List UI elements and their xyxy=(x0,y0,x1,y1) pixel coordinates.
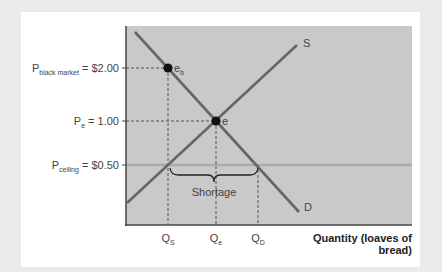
y-label-black-market: Pblack market = $2.00 xyxy=(32,62,119,76)
y-label-equilibrium: Pe = 1.00 xyxy=(74,115,119,129)
shortage-label: Shortage xyxy=(192,186,237,198)
black-market-point xyxy=(163,63,172,72)
equilibrium-point-label: e xyxy=(222,115,228,127)
equilibrium-point xyxy=(211,116,220,125)
x-axis-title-line2: bread) xyxy=(378,244,412,256)
x-axis-title-line1: Quantity (loaves of xyxy=(313,232,412,244)
y-label-ceiling: Pceiling = $0.50 xyxy=(52,159,119,174)
plot-area xyxy=(126,26,412,225)
x-label-qd: QD xyxy=(251,232,265,246)
chart-svg: eb e S D Shortage Pblack market = $2.00 … xyxy=(0,0,442,272)
x-label-qe: Qe xyxy=(210,232,223,246)
demand-label: D xyxy=(304,201,312,213)
x-label-qs: QS xyxy=(161,232,175,246)
supply-label: S xyxy=(303,37,310,49)
